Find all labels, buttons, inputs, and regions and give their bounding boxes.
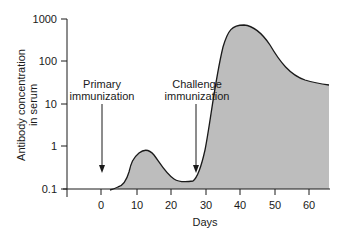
primary-immunization-annotation: Primary immunization xyxy=(70,78,135,173)
y-ticks xyxy=(61,19,67,189)
x-tick-label: 60 xyxy=(303,199,315,211)
y-tick-label: 100 xyxy=(39,55,57,67)
chart: 1000 100 10 1 0.1 0 10 20 30 40 50 60 Da… xyxy=(0,0,343,241)
x-tick-label: 30 xyxy=(200,199,212,211)
svg-text:Challenge: Challenge xyxy=(172,78,222,90)
y-axis-label: Antibody concentration in serum xyxy=(15,49,39,161)
svg-text:immunization: immunization xyxy=(70,90,135,102)
x-tick-label: 0 xyxy=(98,199,104,211)
y-tick-label: 0.1 xyxy=(42,183,57,195)
y-tick-label: 10 xyxy=(45,98,57,110)
x-tick-label: 40 xyxy=(234,199,246,211)
y-tick-label: 1000 xyxy=(33,13,57,25)
x-tick-label: 10 xyxy=(131,199,143,211)
x-axis-label: Days xyxy=(192,216,218,228)
x-tick-label: 50 xyxy=(269,199,281,211)
svg-text:Antibody concentration: Antibody concentration xyxy=(15,49,27,161)
svg-text:Primary: Primary xyxy=(83,78,121,90)
x-ticks xyxy=(101,189,309,195)
x-tick-label: 20 xyxy=(165,199,177,211)
y-tick-label: 1 xyxy=(51,140,57,152)
svg-text:immunization: immunization xyxy=(165,90,230,102)
svg-text:in serum: in serum xyxy=(27,84,39,126)
